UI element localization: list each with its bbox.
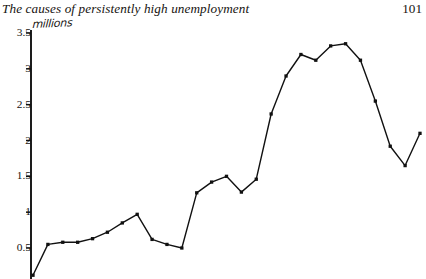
page-title: The causes of persistently high unemploy… <box>2 1 249 17</box>
data-point-marker <box>210 180 213 183</box>
data-point-marker <box>106 231 109 234</box>
y-axis <box>26 30 31 279</box>
data-point-marker <box>344 42 347 45</box>
chart-canvas <box>0 18 426 279</box>
data-point-marker <box>255 178 258 181</box>
series-line-unemployment <box>33 44 420 275</box>
data-point-marker <box>240 190 243 193</box>
data-point-marker <box>91 237 94 240</box>
plot-area <box>0 18 426 279</box>
data-point-marker <box>284 74 287 77</box>
data-point-marker <box>403 164 406 167</box>
data-point-marker <box>136 213 139 216</box>
page-number: 101 <box>402 1 422 17</box>
data-point-marker <box>121 221 124 224</box>
data-point-marker <box>270 112 273 115</box>
data-point-marker <box>165 243 168 246</box>
data-series-line <box>33 44 420 275</box>
data-point-marker <box>31 274 34 277</box>
data-point-marker <box>61 241 64 244</box>
data-point-marker <box>195 191 198 194</box>
unemployment-line-chart: 0.511.522.533.5 millions <box>0 18 426 279</box>
data-point-marker <box>314 59 317 62</box>
data-point-marker <box>374 99 377 102</box>
data-point-marker <box>299 53 302 56</box>
data-point-marker <box>76 241 79 244</box>
data-point-marker <box>225 175 228 178</box>
data-point-marker <box>418 132 421 135</box>
data-point-marker <box>180 246 183 249</box>
data-point-marker <box>359 59 362 62</box>
data-point-marker <box>329 44 332 47</box>
data-point-marker <box>46 243 49 246</box>
data-point-marker <box>389 145 392 148</box>
data-point-marker <box>150 238 153 241</box>
data-point-markers <box>31 42 421 277</box>
